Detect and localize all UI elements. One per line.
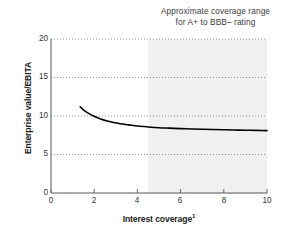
chart-figure: Approximate coverage range for A+ to BBB… bbox=[0, 0, 285, 238]
chart-canvas bbox=[0, 0, 285, 238]
plot-area bbox=[51, 39, 267, 193]
